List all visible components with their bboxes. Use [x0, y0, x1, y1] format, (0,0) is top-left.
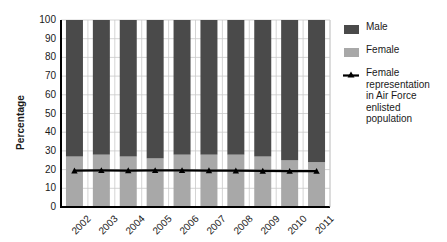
- bar-segment-female: [93, 155, 110, 207]
- bar-segment-male: [281, 20, 298, 160]
- bar-segment-male: [308, 20, 325, 162]
- bar-segment-female: [174, 155, 191, 207]
- legend-line-marker-icon: [342, 69, 360, 81]
- bar-segment-female: [254, 157, 271, 207]
- bar-segment-female: [147, 158, 164, 207]
- bar-segment-male: [120, 20, 137, 157]
- bar-segment-male: [200, 20, 217, 155]
- bar-segment-male: [147, 20, 164, 158]
- bar-segment-male: [93, 20, 110, 155]
- bar-segment-male: [66, 20, 83, 157]
- bar-segment-female: [120, 157, 137, 207]
- bar-segment-female: [200, 155, 217, 207]
- legend-swatch-female: [344, 48, 359, 57]
- chart-container: Percentage 1009080706050403020100 200220…: [0, 0, 447, 242]
- bar-segment-female: [281, 160, 298, 207]
- bar-segment-female: [66, 157, 83, 207]
- legend-label: Female: [366, 44, 399, 56]
- legend-label: Male: [366, 21, 388, 33]
- legend-label: Female representation in Air Force enlis…: [366, 67, 430, 125]
- bar-segment-female: [227, 155, 244, 207]
- bar-segment-male: [254, 20, 271, 157]
- line-series-female-representation: [74, 170, 316, 171]
- legend-swatch-male: [344, 25, 359, 34]
- bar-segment-male: [227, 20, 244, 155]
- bar-segment-male: [174, 20, 191, 155]
